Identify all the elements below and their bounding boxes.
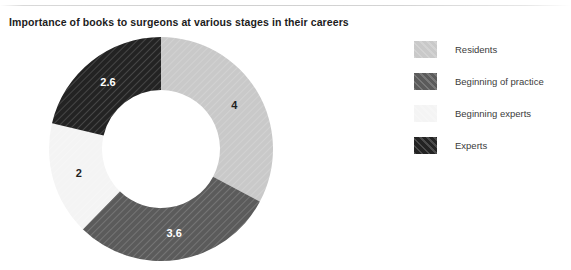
legend-item[interactable]: Experts — [414, 129, 566, 161]
legend-item-label: Experts — [455, 140, 487, 151]
legend-item-label: Beginning experts — [455, 108, 531, 119]
donut-slices — [49, 37, 273, 261]
legend-swatch — [414, 41, 437, 58]
legend-swatch — [414, 105, 437, 122]
donut-slice-hatch — [161, 37, 273, 202]
donut-slice-value-label: 2.6 — [100, 76, 115, 88]
legend-item[interactable]: Beginning experts — [414, 97, 566, 129]
legend-swatch — [414, 137, 437, 154]
donut-slice-value-label: 4 — [231, 99, 238, 111]
donut-chart: 43.622.6 — [45, 33, 277, 265]
figure-top-rule — [0, 5, 571, 6]
legend-item-label: Beginning of practice — [455, 76, 544, 87]
donut-chart-svg: 43.622.6 — [45, 33, 277, 265]
donut-slice-value-label: 2 — [76, 167, 82, 179]
legend-item[interactable]: Residents — [414, 33, 566, 65]
chart-title: Importance of books to surgeons at vario… — [9, 16, 349, 28]
donut-slice-value-label: 3.6 — [167, 227, 182, 239]
legend-swatch — [414, 73, 437, 90]
legend-item[interactable]: Beginning of practice — [414, 65, 566, 97]
chart-figure: Importance of books to surgeons at vario… — [0, 0, 571, 270]
legend-item-label: Residents — [455, 44, 497, 55]
chart-legend: ResidentsBeginning of practiceBeginning … — [414, 33, 566, 161]
